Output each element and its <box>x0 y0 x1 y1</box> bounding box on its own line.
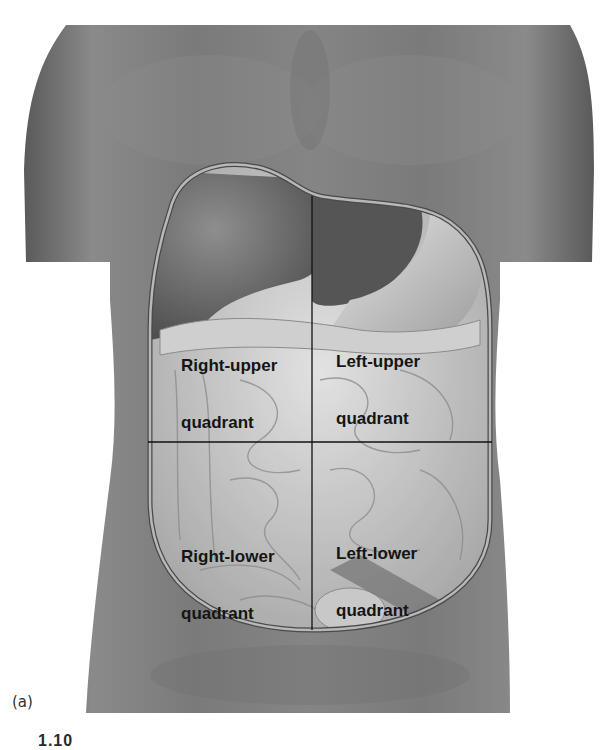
label-left-upper-quadrant: Left-upper quadrant <box>336 314 420 447</box>
label-right-lower-quadrant: Right-lower quadrant <box>181 509 275 642</box>
label-line: quadrant <box>181 413 277 432</box>
label-line: quadrant <box>181 604 275 623</box>
label-right-upper-quadrant: Right-upper quadrant <box>181 318 277 451</box>
label-line: Right-lower <box>181 547 275 566</box>
label-line: Right-upper <box>181 356 277 375</box>
label-left-lower-quadrant: Left-lower quadrant <box>336 506 417 639</box>
label-line: Left-lower <box>336 544 417 563</box>
label-line: Left-upper <box>336 352 420 371</box>
label-line: quadrant <box>336 409 420 428</box>
label-line: quadrant <box>336 601 417 620</box>
figure-caption-fragment: 1.10 <box>38 732 73 750</box>
panel-label: (a) <box>12 693 33 711</box>
